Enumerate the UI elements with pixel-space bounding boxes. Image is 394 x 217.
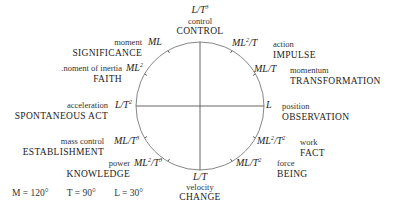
quantity-label: force — [277, 159, 308, 168]
dimension-l: L — [266, 100, 272, 110]
dimension-mlt3: ML/T3 — [114, 136, 139, 146]
concept-label: FAITH — [20, 75, 122, 85]
dimension-ml2t3: ML2/T3 — [134, 158, 162, 168]
node-significance: moment SIGNIFICANCE — [60, 38, 142, 58]
quantity-label: action — [273, 40, 316, 49]
node-change: L/T velocity CHANGE — [170, 172, 230, 202]
node-fact: work FACT — [300, 138, 325, 158]
quantity-label: power — [40, 159, 130, 168]
concept-label: KNOWLEDGE — [40, 170, 130, 180]
quantity-label: velocity — [170, 183, 230, 192]
node-impulse: action IMPULSE — [273, 40, 316, 60]
concept-label: ESTABLISHMENT — [10, 148, 104, 158]
concept-label: SIGNIFICANCE — [60, 49, 142, 59]
legend-l: L = 30° — [114, 188, 143, 198]
node-being: force BEING — [277, 159, 308, 179]
dimension-ml2: ML2 — [126, 63, 143, 73]
angle-legend: M = 120° T = 90° L = 30° — [12, 188, 159, 198]
node-spontaneous-act: acceleration SPONTANEOUS ACT — [0, 101, 108, 121]
concept-label: OBSERVATION — [282, 113, 349, 123]
quantity-label: control — [170, 17, 230, 26]
concept-label: TRANSFORMATION — [290, 77, 381, 87]
dimension-mlt2: ML/T2 — [236, 158, 261, 168]
node-transformation: momentum TRANSFORMATION — [290, 66, 381, 86]
node-knowledge: power KNOWLEDGE — [40, 159, 130, 179]
quantity-label: work — [300, 138, 325, 147]
dimension-lt2: L/T2 — [115, 100, 132, 110]
dimension-label: L/T — [170, 172, 230, 182]
quantity-label: mass control — [10, 137, 104, 146]
node-observation: position OBSERVATION — [282, 102, 349, 122]
concept-label: SPONTANEOUS ACT — [0, 112, 108, 122]
legend-t: T = 90° — [67, 188, 96, 198]
dimension-mlt: ML/T — [254, 64, 276, 74]
node-establishment: mass control ESTABLISHMENT — [10, 137, 104, 157]
dimension-ml: ML — [148, 37, 162, 47]
quantity-label: .noment of inertia — [20, 64, 122, 73]
dimension-ml2t: ML2/T — [232, 38, 257, 48]
quantity-label: momentum — [290, 66, 381, 75]
dimension-circle-diagram: L/T3 control CONTROL moment SIGNIFICANCE… — [0, 0, 394, 217]
concept-label: CONTROL — [170, 27, 230, 37]
quantity-label: acceleration — [0, 101, 108, 110]
concept-label: FACT — [300, 149, 325, 159]
dimension-label: L/T3 — [170, 5, 230, 15]
quantity-label: position — [282, 102, 349, 111]
dimension-ml2t2: ML2/T2 — [257, 136, 285, 146]
legend-m: M = 120° — [12, 188, 49, 198]
concept-label: IMPULSE — [273, 51, 316, 61]
node-control: L/T3 control CONTROL — [170, 5, 230, 36]
concept-label: CHANGE — [170, 193, 230, 203]
quantity-label: moment — [60, 38, 142, 47]
concept-label: BEING — [277, 170, 308, 180]
node-faith: .noment of inertia FAITH — [20, 64, 122, 84]
